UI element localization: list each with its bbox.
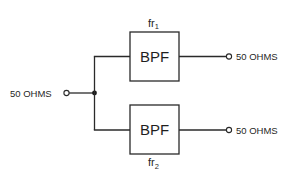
bpf-2-label: BPF bbox=[140, 121, 169, 138]
bpf-2-output-terminal-icon bbox=[226, 127, 231, 132]
bpf-block-2: BPF fr2 bbox=[130, 105, 179, 171]
bpf-1-frequency-label: fr1 bbox=[148, 17, 159, 32]
bpf-1-label: BPF bbox=[140, 48, 169, 65]
input-impedance-label: 50 OHMS bbox=[10, 88, 52, 99]
input-terminal-icon bbox=[64, 90, 69, 95]
bpf-block-1: fr1 BPF bbox=[130, 17, 179, 82]
bpf-1-output-terminal-icon bbox=[226, 54, 231, 59]
diplexer-diagram: 50 OHMS fr1 BPF 50 OHMS BPF fr2 50 OHMS bbox=[0, 0, 296, 184]
bpf-2-output-impedance-label: 50 OHMS bbox=[236, 125, 278, 136]
bpf-1-output-impedance-label: 50 OHMS bbox=[236, 51, 278, 62]
bpf-2-frequency-label: fr2 bbox=[148, 156, 159, 171]
